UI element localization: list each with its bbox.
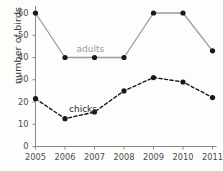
plot-area [0,0,223,171]
data-point-chicks-2011 [210,95,215,100]
series-line-adults [36,13,213,58]
data-point-adults-2007 [92,55,97,60]
series-label-chicks: chicks [69,104,97,114]
axes [33,6,217,150]
series-label-adults: adults [77,44,105,54]
series-line-chicks [36,78,213,119]
data-point-adults-2005 [33,10,38,15]
data-point-chicks-2006 [62,116,67,121]
bird-population-line-chart: number of birds 0102030405060 2005200620… [0,0,223,171]
data-point-chicks-2009 [151,75,156,80]
data-point-chicks-2010 [180,79,185,84]
data-point-adults-2006 [62,55,67,60]
data-point-adults-2008 [121,55,126,60]
data-point-adults-2010 [180,10,185,15]
data-point-chicks-2005 [33,96,38,101]
data-point-adults-2011 [210,48,215,53]
data-series-layer [33,10,215,121]
data-point-chicks-2008 [121,88,126,93]
data-point-adults-2009 [151,10,156,15]
